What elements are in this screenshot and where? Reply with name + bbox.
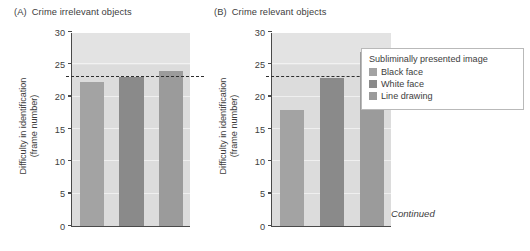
panel-b-y-tick-15 (268, 128, 273, 129)
panel-a-bar-2 (119, 77, 144, 226)
panel-a-y-tick-25 (68, 63, 73, 64)
panel-a-letter: (A) (14, 7, 27, 17)
panel-b-y-tick-20 (268, 95, 273, 96)
legend-swatch-icon (369, 68, 377, 76)
legend-item-label: White face (381, 79, 424, 89)
legend-item-label: Line drawing (381, 91, 433, 101)
panel-a-bar-1 (80, 82, 105, 226)
panel-b-y-tick-label-5: 5 (260, 189, 265, 199)
continued-note: Continued (391, 208, 435, 219)
panel-a-y-tick-15 (68, 128, 73, 129)
panel-a-plot-area: 051015202530 (71, 33, 190, 227)
panel-a-y-tick-10 (68, 160, 73, 161)
panel-b-bar-1 (280, 110, 305, 226)
legend-title: Subliminally presented image (369, 54, 516, 64)
panel-a: (A)Crime irrelevant objects Difficulty i… (0, 0, 212, 251)
panel-a-y-tick-label-25: 25 (55, 60, 65, 70)
panel-b-y-tick-label-10: 10 (255, 157, 265, 167)
panel-b-y-tick-10 (268, 160, 273, 161)
panel-a-y-axis-label-line1: Difficulty in identification (18, 31, 29, 221)
panel-a-y-tick-30 (68, 31, 73, 32)
panel-a-y-tick-label-0: 0 (60, 222, 65, 232)
panel-a-plot-upper-band (72, 33, 190, 65)
panel-b-y-tick-25 (268, 63, 273, 64)
panel-a-title-text: Crime irrelevant objects (32, 7, 132, 17)
panel-a-y-tick-label-20: 20 (55, 92, 65, 102)
figure-panel-group: (A)Crime irrelevant objects Difficulty i… (0, 0, 530, 251)
panel-b-y-axis-label-line1: Difficulty in identification (218, 31, 229, 221)
panel-a-gridline-30 (72, 31, 190, 32)
panel-b-y-axis-label: Difficulty in identification (frame numb… (218, 31, 239, 221)
panel-b: (B)Crime relevant objects Difficulty in … (198, 0, 413, 251)
panel-b-y-tick-label-0: 0 (260, 222, 265, 232)
panel-a-y-tick-label-5: 5 (60, 189, 65, 199)
panel-a-y-tick-0 (68, 225, 73, 226)
panel-a-y-tick-label-30: 30 (55, 28, 65, 38)
legend-items: Black faceWhite faceLine drawing (369, 67, 516, 103)
legend-item-black-face: Black face (369, 67, 447, 77)
panel-b-y-tick-label-30: 30 (255, 28, 265, 38)
panel-a-y-axis-label: Difficulty in identification (frame numb… (18, 31, 39, 221)
panel-b-y-axis-label-line2: (frame number) (229, 31, 240, 221)
panel-a-y-tick-label-10: 10 (55, 157, 65, 167)
legend-item-label: Black face (381, 67, 423, 77)
panel-a-y-tick-5 (68, 192, 73, 193)
panel-b-y-tick-30 (268, 31, 273, 32)
panel-b-gridline-30 (272, 31, 391, 32)
panel-a-y-axis-label-line2: (frame number) (29, 31, 40, 221)
legend-item-line-drawing: Line drawing (369, 91, 516, 101)
panel-b-y-tick-label-25: 25 (255, 60, 265, 70)
panel-b-y-tick-0 (268, 225, 273, 226)
panel-a-y-tick-20 (68, 95, 73, 96)
legend-swatch-icon (369, 80, 377, 88)
legend-item-white-face: White face (369, 79, 443, 89)
panel-b-title-text: Crime relevant objects (232, 7, 327, 17)
panel-b-title: (B)Crime relevant objects (214, 7, 326, 17)
legend-swatch-icon (369, 92, 377, 100)
panel-b-y-tick-5 (268, 192, 273, 193)
panel-a-gridline-25 (72, 63, 190, 64)
legend: Subliminally presented image Black faceW… (361, 48, 524, 110)
panel-b-y-tick-label-20: 20 (255, 92, 265, 102)
panel-a-title: (A)Crime irrelevant objects (14, 7, 132, 17)
panel-b-bar-2 (320, 78, 345, 226)
panel-a-bar-3 (159, 71, 184, 226)
panel-b-letter: (B) (214, 7, 227, 17)
panel-a-reference-line (66, 76, 204, 77)
panel-b-y-tick-label-15: 15 (255, 125, 265, 135)
panel-a-y-tick-label-15: 15 (55, 125, 65, 135)
